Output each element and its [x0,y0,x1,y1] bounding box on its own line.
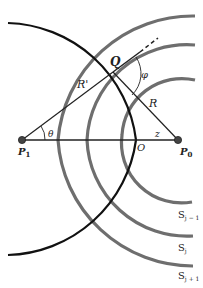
point-p1 [18,136,25,143]
label-s-j-minus-1: Sj − 1 [178,209,199,222]
angle-phi-arc [132,57,141,95]
diagram-canvas: Q R' R φ θ z O P1 P0 Sj − 1 Sj Sj + 1 [0,0,203,288]
label-phi: φ [141,69,148,80]
label-p0: P0 [179,146,193,159]
label-z: z [154,129,160,139]
label-s-j: Sj [178,242,187,255]
label-s-j-plus-1: Sj + 1 [178,270,199,283]
label-theta: θ [48,129,54,139]
point-p0 [174,136,181,143]
label-r-prime: R' [76,78,88,91]
label-o: O [137,142,145,153]
wavefront-s-j-minus-1 [121,79,195,203]
label-r: R [148,97,157,110]
label-q: Q [110,55,121,69]
angle-theta-arc [41,126,45,140]
line-r-prime [22,72,113,140]
label-p1: P1 [17,146,31,159]
